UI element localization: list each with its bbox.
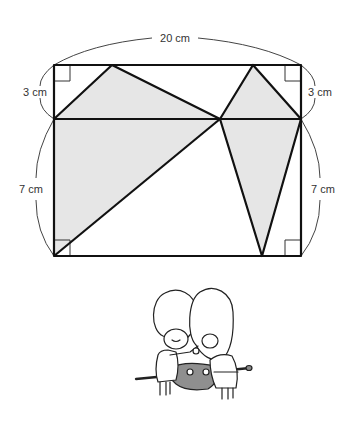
- geometry-figure: 20 cm 3 cm 3 cm 7 cm 7 cm: [0, 0, 354, 421]
- hand-1: [193, 348, 199, 354]
- shaded-regions: [54, 65, 301, 256]
- right-top-height-label: 3 cm: [308, 86, 332, 98]
- top-width-arc-right: [198, 38, 301, 65]
- left-bottom-height-label: 7 cm: [19, 183, 43, 195]
- children-illustration: [136, 289, 252, 399]
- shaded-upper-left-triangle: [54, 65, 220, 119]
- stick-knob: [246, 366, 252, 371]
- top-width-label: 20 cm: [160, 32, 190, 44]
- right-child-face: [202, 334, 218, 348]
- right-angle-top-right-icon: [285, 65, 301, 81]
- top-width-arc-left: [54, 38, 152, 65]
- shaded-lower-right-triangle: [220, 119, 301, 256]
- hand-3: [203, 369, 209, 375]
- left-child-face: [164, 329, 188, 349]
- right-bottom-height-label: 7 cm: [311, 183, 335, 195]
- right-angle-bottom-right-icon: [285, 240, 301, 256]
- right-child-body: [210, 355, 237, 388]
- hand-2: [187, 369, 193, 375]
- right-angle-top-left-icon: [54, 65, 70, 81]
- left-top-height-label: 3 cm: [23, 86, 47, 98]
